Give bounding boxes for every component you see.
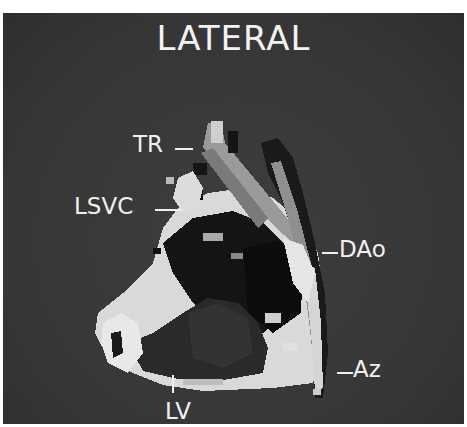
heart-mri-image [3,13,464,424]
leader-line-az [337,372,353,374]
label-tr: TR [133,133,163,156]
leader-line-lv [172,375,174,393]
label-dao: DAo [339,238,386,261]
label-lv: LV [165,400,191,423]
mri-figure-panel: LATERAL [3,13,464,424]
label-lsvc: LSVC [74,195,133,218]
leader-line-tr [175,148,193,150]
label-az: Az [353,358,381,381]
leader-line-lsvc [155,209,182,211]
leader-line-dao [322,252,338,254]
